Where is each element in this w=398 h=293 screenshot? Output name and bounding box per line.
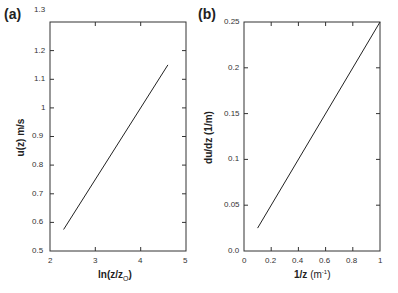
ytick-b: 0.25 bbox=[224, 17, 240, 26]
ytick-a: 0.6 bbox=[32, 217, 43, 226]
xtick-a: 3 bbox=[93, 256, 97, 265]
panel-label-a: (a) bbox=[4, 6, 21, 22]
xtick-b: 0.8 bbox=[346, 256, 357, 265]
ytick-b: 0.0 bbox=[228, 246, 239, 255]
chart-canvas bbox=[0, 0, 398, 293]
ylabel-a: u(z) m/s bbox=[15, 108, 26, 168]
ytick-a: 1.1 bbox=[34, 74, 45, 83]
xtick-b: 0.6 bbox=[319, 256, 330, 265]
ytick-a: 1.3 bbox=[34, 5, 45, 14]
xtick-a: 2 bbox=[48, 256, 52, 265]
ytick-b: 0.2 bbox=[228, 63, 239, 72]
ytick-a: 1 bbox=[41, 103, 45, 112]
xtick-b: 0.4 bbox=[292, 256, 303, 265]
series-line-b bbox=[258, 22, 380, 228]
xtick-a: 5 bbox=[183, 256, 187, 265]
xlabel-b-main: 1/z bbox=[294, 269, 307, 280]
xlabel-a-end: ) bbox=[128, 269, 131, 280]
ytick-a: 0.5 bbox=[32, 246, 43, 255]
ytick-a: 0.8 bbox=[32, 160, 43, 169]
xlabel-b-unit: (m bbox=[310, 269, 322, 280]
ylabel-b: du/dz (1/m) bbox=[203, 98, 214, 178]
plot-frame-a bbox=[50, 22, 186, 251]
xlabel-a-main: ln(z/z bbox=[98, 269, 123, 280]
xlabel-b: 1/z (m-1) bbox=[294, 269, 330, 280]
xlabel-b-unit-end: ) bbox=[327, 269, 330, 280]
xtick-b: 1 bbox=[378, 256, 382, 265]
ytick-a: 1.2 bbox=[34, 46, 45, 55]
ytick-b: 0.05 bbox=[224, 200, 240, 209]
ytick-b: 0.15 bbox=[224, 109, 240, 118]
ytick-b: 0.1 bbox=[228, 154, 239, 163]
ytick-a: 0.9 bbox=[32, 131, 43, 140]
panel-label-b: (b) bbox=[198, 6, 216, 22]
ytick-a: 0.7 bbox=[32, 189, 43, 198]
xtick-a: 4 bbox=[138, 256, 142, 265]
series-line-a bbox=[64, 65, 168, 230]
xtick-b: 0.2 bbox=[265, 256, 276, 265]
ticks-a bbox=[50, 22, 186, 251]
xlabel-a: ln(z/zO) bbox=[98, 269, 132, 282]
xtick-b: 0 bbox=[242, 256, 246, 265]
